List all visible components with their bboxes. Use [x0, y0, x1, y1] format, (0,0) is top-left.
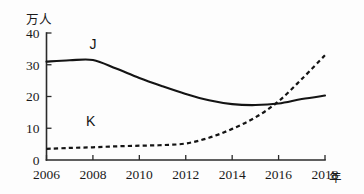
y-axis-tick-label: 20 [26, 89, 40, 104]
chart-tick-marks [47, 33, 326, 160]
y-axis-tick-label: 10 [26, 121, 40, 136]
chart-plot-area: 010203040 2006200820102012201420162018 J… [0, 0, 364, 194]
x-axis-tick-label: 2010 [126, 167, 153, 182]
chart-series-lines [47, 55, 326, 149]
line-chart-figure: 010203040 2006200820102012201420162018 J… [0, 0, 364, 194]
chart-series-labels: JK [86, 36, 96, 129]
x-axis-tick-label: 2014 [219, 167, 246, 182]
y-axis-tick-label: 30 [26, 58, 40, 73]
chart-axes [47, 33, 326, 160]
y-axis-tick-label: 40 [26, 26, 40, 41]
x-axis-tick-label: 2016 [265, 167, 292, 182]
series-annotation-j: J [89, 36, 96, 52]
x-axis-tick-label: 2012 [172, 167, 199, 182]
y-axis-unit-label: 万人 [26, 12, 52, 27]
y-axis-tick-labels: 010203040 [26, 26, 40, 168]
x-axis-tick-label: 2006 [33, 167, 60, 182]
x-axis-unit-label: 年 [329, 170, 342, 185]
x-axis-tick-label: 2008 [79, 167, 106, 182]
series-annotation-k: K [86, 113, 96, 129]
x-axis-tick-labels: 2006200820102012201420162018 [33, 167, 339, 182]
